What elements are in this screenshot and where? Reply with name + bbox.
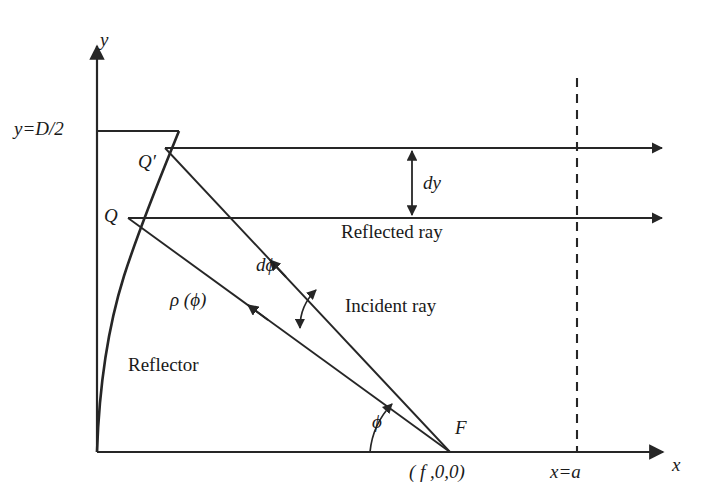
reflected-ray-label: Reflected ray [341,222,443,241]
figure-canvas: y x y=D/2 Q′ Q F ( f ,0,0) x=a ρ (ϕ) dϕ … [0,0,701,502]
aperture-height-label: y=D/2 [14,119,64,138]
dy-label: dy [423,173,441,192]
aperture-plane-label: x=a [550,462,581,481]
point-f-label: F [455,418,467,437]
phi-label: ϕ [372,412,382,431]
d-phi-label: dϕ [256,255,275,274]
rho-phi-label: ρ (ϕ) [170,290,206,309]
y-axis-label: y [100,30,108,49]
x-axis-label: x [672,455,680,474]
incident-ray-label: Incident ray [345,296,436,315]
reflector-label: Reflector [128,355,199,374]
incident-ray-lower-arrow [248,305,268,320]
reflector-curve [97,131,179,452]
point-q-label: Q [104,206,118,225]
incident-ray-lower [128,218,450,452]
focus-coordinates-label: ( f ,0,0) [409,462,465,481]
point-q-prime-label: Q′ [138,152,156,171]
diagram-svg [0,0,701,502]
